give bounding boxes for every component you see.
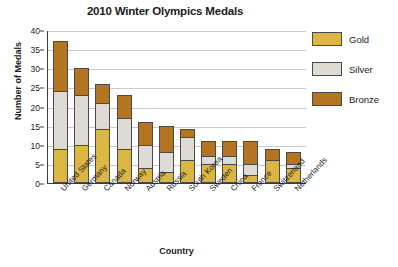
x-label-slot: United States	[52, 186, 67, 244]
y-tick-label: 20	[31, 103, 40, 113]
legend-swatch-gold	[312, 32, 342, 46]
legend-swatch-silver	[312, 62, 342, 76]
bar-segment-silver[interactable]	[74, 95, 89, 145]
bar-segment-bronze[interactable]	[201, 141, 216, 156]
y-tick-label: 35	[31, 45, 40, 55]
legend-label: Silver	[349, 64, 373, 75]
bar-column[interactable]	[53, 41, 68, 183]
y-tick-label: 25	[31, 83, 40, 93]
bar-segment-bronze[interactable]	[138, 122, 153, 145]
bar-segment-bronze[interactable]	[265, 149, 280, 160]
legend-swatch-bronze	[312, 92, 342, 106]
bar-segment-bronze[interactable]	[117, 95, 132, 118]
bar-segment-silver[interactable]	[95, 103, 110, 130]
x-label-slot: Netherlands	[286, 186, 301, 244]
x-label-slot: France	[243, 186, 258, 244]
bar-segment-bronze[interactable]	[180, 129, 195, 137]
bar-segment-bronze[interactable]	[53, 41, 68, 91]
legend-item-bronze[interactable]: Bronze	[312, 92, 396, 106]
y-tick-label: 30	[31, 64, 40, 74]
bar-segment-silver[interactable]	[117, 118, 132, 149]
bar-segment-bronze[interactable]	[74, 68, 89, 95]
x-axis-title: Country	[47, 246, 306, 256]
bar-segment-bronze[interactable]	[222, 141, 237, 156]
x-axis-tick-labels: United StatesGermanyCanadaNorwayAustriaR…	[47, 186, 306, 244]
y-tick-mark	[40, 107, 44, 108]
bar-segment-bronze[interactable]	[243, 141, 258, 164]
bar-segment-silver[interactable]	[53, 91, 68, 148]
bar-segment-bronze[interactable]	[159, 126, 174, 153]
y-tick-mark	[40, 126, 44, 127]
y-tick-mark	[40, 184, 44, 185]
bar-segment-silver[interactable]	[138, 145, 153, 168]
legend-item-silver[interactable]: Silver	[312, 62, 396, 76]
bar-segment-silver[interactable]	[222, 156, 237, 164]
bar-segment-bronze[interactable]	[95, 84, 110, 103]
y-tick-label: 40	[31, 26, 40, 36]
x-label-slot: Austria	[137, 186, 152, 244]
x-label-slot: China	[222, 186, 237, 244]
legend-label: Gold	[349, 34, 369, 45]
x-label-slot: Canada	[95, 186, 110, 244]
y-tick-label: 10	[31, 141, 40, 151]
x-label-slot: South Korea	[180, 186, 195, 244]
chart-container: 2010 Winter Olympics Medals Number of Me…	[0, 0, 398, 267]
chart-title: 2010 Winter Olympics Medals	[0, 5, 330, 17]
bar-segment-silver[interactable]	[180, 137, 195, 160]
x-label-slot: Germany	[73, 186, 88, 244]
x-label-slot: Switzerland	[265, 186, 280, 244]
y-tick-mark	[40, 69, 44, 70]
legend-item-gold[interactable]: Gold	[312, 32, 396, 46]
chart-legend: GoldSilverBronze	[312, 32, 396, 122]
y-axis-tick-labels: 0510152025303540	[14, 31, 44, 184]
y-tick-mark	[40, 145, 44, 146]
y-tick-mark	[40, 50, 44, 51]
y-tick-mark	[40, 31, 44, 32]
x-label-slot: Russia	[158, 186, 173, 244]
x-label-slot: Sweden	[201, 186, 216, 244]
y-tick-label: 15	[31, 122, 40, 132]
y-tick-mark	[40, 88, 44, 89]
y-tick-mark	[40, 164, 44, 165]
x-label-slot: Norway	[116, 186, 131, 244]
legend-label: Bronze	[349, 94, 379, 105]
